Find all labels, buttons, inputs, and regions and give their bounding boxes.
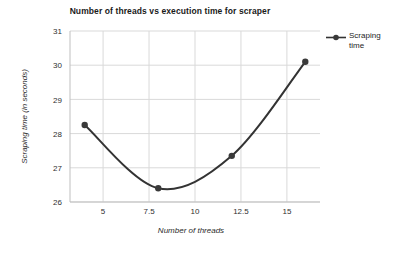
data-point-marker — [302, 59, 308, 65]
legend-line-marker-icon — [326, 32, 346, 43]
x-tick-label: 5 — [101, 207, 106, 216]
y-tick-label: 31 — [53, 27, 62, 36]
chart-legend: Scraping time — [326, 31, 408, 51]
data-point-marker — [229, 153, 235, 159]
y-tick-label: 26 — [53, 198, 62, 207]
x-tick-label: 15 — [282, 207, 291, 216]
y-tick-label: 27 — [53, 164, 62, 173]
legend-label-line2: time — [349, 41, 403, 51]
x-tick-label: 7.5 — [143, 207, 155, 216]
legend-item-scraping-time: Scraping time — [326, 31, 408, 51]
y-tick-label: 30 — [53, 61, 62, 70]
data-point-marker — [155, 185, 161, 191]
data-point-marker — [82, 122, 88, 128]
y-tick-label: 29 — [53, 96, 62, 105]
legend-label-scraping-time: Scraping time — [349, 31, 403, 51]
x-tick-label: 12.5 — [233, 207, 249, 216]
x-tick-label: 10 — [191, 207, 200, 216]
y-tick-label: 28 — [53, 130, 62, 139]
legend-label-line1: Scraping — [349, 31, 403, 41]
chart-figure: Number of threads vs execution time for … — [0, 0, 410, 253]
